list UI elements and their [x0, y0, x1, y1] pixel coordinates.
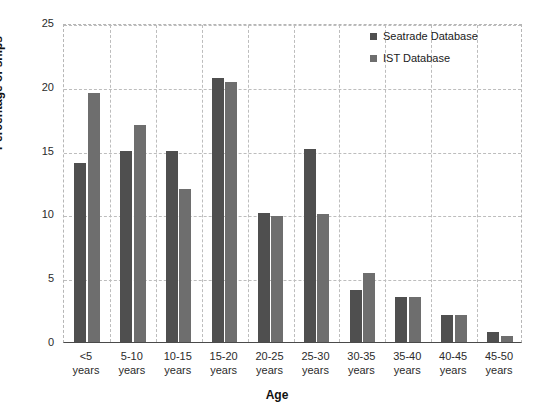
bar-group [110, 25, 156, 342]
x-axis-tick-label-line: years [247, 363, 293, 377]
bar [487, 332, 499, 342]
bar [134, 125, 146, 342]
x-axis-tick-label-line: 15-20 [201, 349, 247, 363]
x-axis-tick-label-line: 5-10 [109, 349, 155, 363]
x-axis-tick-label-line: 45-50 [476, 349, 522, 363]
bar [409, 297, 421, 342]
bar [88, 93, 100, 342]
legend-item[interactable]: IST Database [370, 52, 478, 64]
x-axis-tick-label-line: years [201, 363, 247, 377]
bar [441, 315, 453, 342]
x-axis-tick-label: 15-20years [201, 349, 247, 377]
x-axis-tick-label-line: years [63, 363, 109, 377]
y-axis-tick-label: 25 [18, 17, 54, 29]
x-axis-tick-label-line: years [155, 363, 201, 377]
bar [350, 290, 362, 342]
y-axis-tick-label: 20 [18, 81, 54, 93]
bar-group [202, 25, 248, 342]
y-axis-title: Percentage of ships [0, 36, 5, 150]
x-axis-tick-label-line: years [476, 363, 522, 377]
legend-item[interactable]: Seatrade Database [370, 30, 478, 42]
bar [179, 189, 191, 342]
bar [501, 336, 513, 342]
bar [363, 273, 375, 342]
x-axis-tick-label: <5years [63, 349, 109, 377]
x-axis-tick-label-line: years [109, 363, 155, 377]
x-axis-tick-label: 30-35years [338, 349, 384, 377]
x-axis-tick-label-line: years [384, 363, 430, 377]
bar-chart-figure: Percentage of ships 0510152025 <5years5-… [0, 0, 554, 420]
x-axis-tick-label: 40-45years [430, 349, 476, 377]
bar [317, 214, 329, 342]
x-axis-tick-label: 45-50years [476, 349, 522, 377]
x-axis-tick-label-line: 30-35 [338, 349, 384, 363]
bar [225, 82, 237, 342]
y-axis-tick-label: 5 [18, 272, 54, 284]
y-axis-tick-label: 15 [18, 145, 54, 157]
bar-group [294, 25, 340, 342]
x-axis-tick-label-line: years [293, 363, 339, 377]
x-axis-tick-label: 25-30years [293, 349, 339, 377]
x-axis-tick-label-line: <5 [63, 349, 109, 363]
chart-legend: Seatrade DatabaseIST Database [370, 30, 478, 74]
bar [74, 163, 86, 342]
x-axis-tick-label-line: 10-15 [155, 349, 201, 363]
legend-swatch-icon [370, 55, 377, 62]
x-axis-tick-label-line: 25-30 [293, 349, 339, 363]
legend-swatch-icon [370, 33, 377, 40]
x-axis-title: Age [0, 388, 554, 402]
legend-label: IST Database [383, 52, 450, 64]
x-axis-tick-label: 35-40years [384, 349, 430, 377]
bar [258, 213, 270, 342]
bar-group [477, 25, 523, 342]
x-axis-tick-label-line: 20-25 [247, 349, 293, 363]
x-axis-tick-label-line: years [338, 363, 384, 377]
x-axis-tick-label-line: 35-40 [384, 349, 430, 363]
bar [395, 297, 407, 342]
x-axis-tick-label-line: years [430, 363, 476, 377]
x-axis-tick-label-line: 40-45 [430, 349, 476, 363]
bar-group [64, 25, 110, 342]
bar [166, 151, 178, 342]
x-axis-tick-label: 20-25years [247, 349, 293, 377]
bar [120, 151, 132, 342]
bar [212, 78, 224, 342]
bar [271, 216, 283, 342]
bar-group [156, 25, 202, 342]
y-axis-tick-label: 0 [18, 336, 54, 348]
bar-group [248, 25, 294, 342]
x-axis-tick-label: 5-10years [109, 349, 155, 377]
legend-label: Seatrade Database [383, 30, 478, 42]
bar [455, 315, 467, 342]
bar [304, 149, 316, 342]
x-axis-tick-label: 10-15years [155, 349, 201, 377]
y-axis-tick-label: 10 [18, 208, 54, 220]
